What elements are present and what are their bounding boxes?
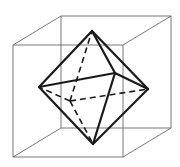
cube-depth-edge xyxy=(123,128,171,157)
octahedron-hidden-edges xyxy=(39,31,148,144)
octahedron-edge xyxy=(115,73,148,89)
cube-depth-edge xyxy=(13,16,61,45)
octahedron-in-cube-diagram xyxy=(0,0,180,167)
octahedron-visible-edges xyxy=(39,31,148,144)
octahedron-hidden-edge xyxy=(39,87,70,101)
octahedron-edge xyxy=(39,87,93,144)
cube-depth-edge xyxy=(13,128,61,157)
cube-wireframe xyxy=(13,16,171,157)
octahedron-edge xyxy=(92,31,148,89)
cube-depth-edge xyxy=(123,16,171,45)
